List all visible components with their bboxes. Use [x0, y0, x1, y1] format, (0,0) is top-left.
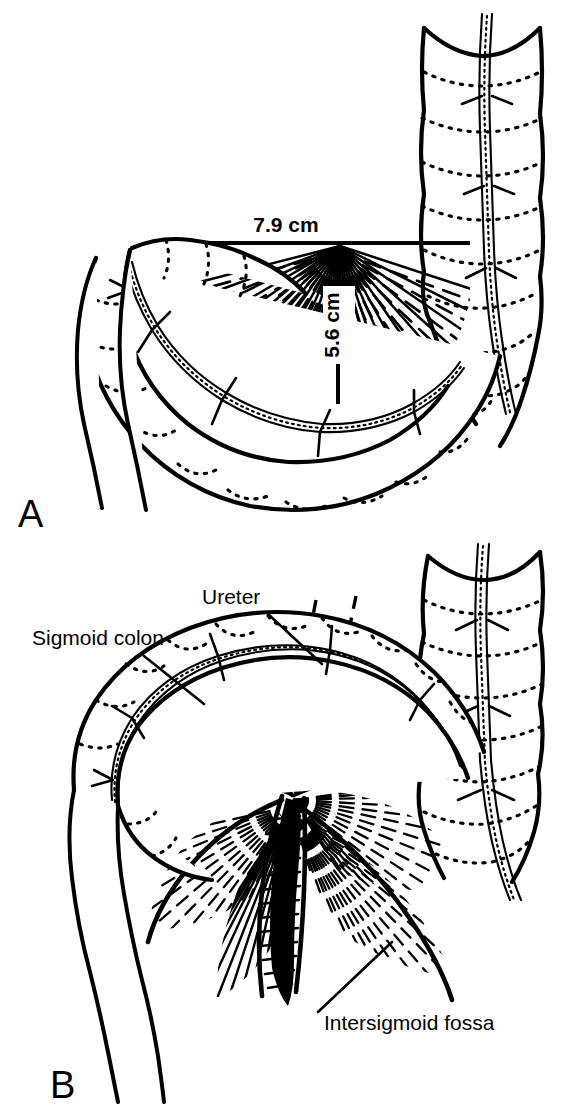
descending-colon-haustra-a-2 — [424, 72, 540, 86]
descending-colon-haustra-a-3 — [422, 118, 542, 132]
intersigmoid-fossa-label: Intersigmoid fossa — [324, 1011, 495, 1034]
descending-colon-wall-a-right — [500, 28, 543, 446]
ureter-label: Ureter — [202, 585, 260, 608]
panel-b: Sigmoid colon Ureter Intersigmoid fossa … — [32, 544, 543, 1106]
height-measure-label: 5.6 cm — [320, 292, 343, 357]
panel-letter-a: A — [18, 493, 44, 535]
descending-colon-haustra-a-1 — [424, 28, 540, 56]
descending-colon-haustra-b-2 — [424, 600, 542, 614]
figure-canvas: 7.9 cm 5.6 cm A — [0, 0, 562, 1107]
mesenteric-vessel-a-1 — [462, 96, 512, 104]
mesenteric-vessel-b-1 — [456, 620, 508, 630]
panel-letter-b: B — [50, 1064, 75, 1106]
anatomy-figure: 7.9 cm 5.6 cm A — [0, 0, 562, 1107]
intersigmoid-fossa-leader — [318, 942, 392, 1012]
descending-colon-haustra-b-1 — [428, 552, 540, 580]
mesenteric-vessel-a-3 — [466, 268, 516, 278]
sigmoid-colon-label: Sigmoid colon — [32, 626, 164, 649]
sigmoid-lower-band-b — [118, 806, 212, 880]
rectum-wall-b-left — [69, 790, 118, 1102]
width-measure-label: 7.9 cm — [253, 213, 318, 236]
mesenteric-vessel-a-2 — [464, 186, 514, 194]
panel-a: 7.9 cm 5.6 cm A — [18, 14, 543, 535]
mesenteric-vessel-b-3 — [458, 790, 514, 800]
